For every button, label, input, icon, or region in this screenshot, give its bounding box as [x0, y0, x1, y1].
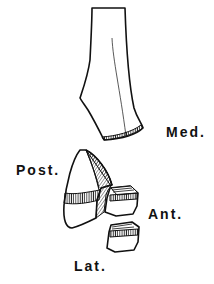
label-lateral: Lat.	[74, 258, 107, 274]
label-posterior: Post.	[16, 162, 60, 178]
lateral-fragment	[107, 222, 139, 252]
label-anterior: Ant.	[148, 206, 183, 222]
posterior-fragment	[64, 150, 112, 228]
tibia-shaft	[80, 8, 143, 140]
fracture-diagram	[0, 0, 214, 284]
anterior-fragment	[105, 186, 138, 216]
label-medial: Med.	[166, 124, 206, 140]
